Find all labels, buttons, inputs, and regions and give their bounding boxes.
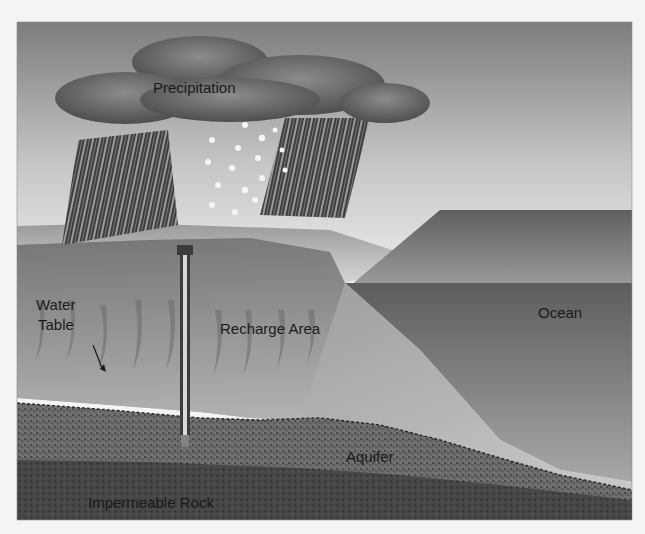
label-water-table-line1: Water [36, 296, 75, 313]
label-impermeable-rock: Impermeable Rock [88, 494, 214, 511]
label-aquifer: Aquifer [346, 448, 394, 465]
label-water-table-line2: Table [38, 316, 74, 333]
rain-band-left [62, 130, 178, 245]
diagram-frame [17, 22, 632, 520]
label-recharge-area: Recharge Area [220, 320, 321, 337]
groundwater-diagram: Precipitation Water Table Recharge Area … [0, 0, 645, 534]
label-ocean: Ocean [538, 304, 582, 321]
label-precipitation: Precipitation [153, 79, 236, 96]
